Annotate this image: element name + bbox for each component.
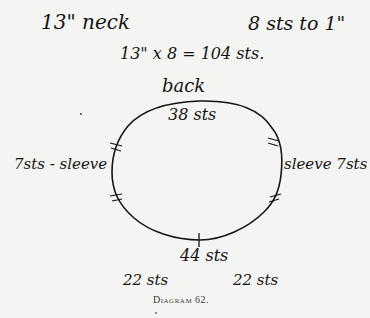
diagram-page: 13" neck 8 sts to 1" 13" x 8 = 104 sts. … [0, 0, 370, 318]
back-label: back [162, 77, 205, 95]
gauge-label: 8 sts to 1" [248, 14, 345, 33]
right-sleeve-label: sleeve 7sts [284, 157, 367, 172]
diagram-caption: Diagram 62. [153, 294, 209, 305]
marker-right-upper [268, 138, 279, 146]
bottom-right-split-label: 22 sts [233, 273, 278, 288]
stitch-calculation: 13" x 8 = 104 sts. [120, 46, 264, 62]
left-sleeve-label: 7sts - sleeve [14, 157, 107, 172]
bottom-left-split-label: 22 sts [123, 273, 168, 288]
marker-left-lower [110, 194, 122, 201]
neck-label: 13" neck [41, 12, 130, 32]
top-stitches-label: 38 sts [168, 107, 216, 123]
bottom-stitches-label: 44 sts [180, 248, 228, 264]
